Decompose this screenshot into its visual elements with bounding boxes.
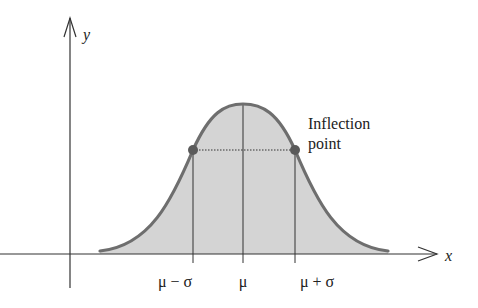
x-axis-label: x	[444, 247, 452, 264]
tick-label-mu: μ	[239, 273, 248, 291]
tick-label-mu-minus-sigma: μ − σ	[158, 273, 193, 291]
normal-distribution-diagram: y x Inflection point μ − σ μ μ + σ	[0, 0, 478, 308]
inflection-point-left	[188, 145, 198, 155]
inflection-point-right	[290, 145, 300, 155]
annotation-line2: point	[308, 135, 341, 153]
tick-label-mu-plus-sigma: μ + σ	[300, 273, 335, 291]
y-axis-label: y	[81, 26, 91, 44]
annotation-line1: Inflection	[308, 115, 370, 132]
